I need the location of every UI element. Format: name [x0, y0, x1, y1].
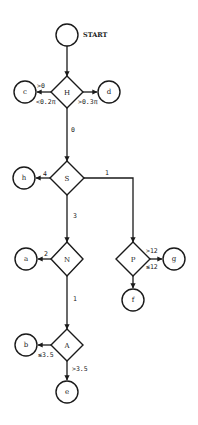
flowchart: START H c d S h N a P g f A b e >0 <0.2π… [0, 0, 198, 425]
node-e-label: e [65, 388, 69, 396]
node-p-label: P [131, 256, 136, 264]
edge-label-h-s: 0 [71, 126, 75, 134]
edge-label-h-d: >0.3π [78, 98, 98, 106]
edge-label-h-c-bottom: <0.2π [36, 98, 56, 106]
edge-label-s-p: 1 [105, 169, 109, 177]
edge-label-p-g-bottom: ≤12 [146, 263, 158, 271]
edge-label-h-c-top: >0 [37, 82, 45, 90]
node-n-label: N [64, 256, 70, 264]
node-b-label: b [24, 341, 29, 349]
node-g-label: g [172, 255, 177, 263]
node-s-label: S [65, 175, 70, 183]
node-start [56, 24, 78, 46]
node-h-terminal-label: h [22, 174, 27, 182]
node-a-label: A [63, 342, 70, 350]
edge-label-a-b: ≤3.5 [38, 351, 54, 359]
edge-label-n-a: 2 [44, 250, 48, 258]
node-d-label: d [107, 88, 112, 96]
node-c-label: c [23, 88, 27, 96]
node-h-label: H [64, 89, 70, 97]
edge-s-to-p [84, 178, 133, 242]
edge-label-p-g-top: >12 [146, 247, 158, 255]
edge-label-s-h: 4 [43, 170, 47, 178]
edge-label-n-a-node: 1 [73, 295, 77, 303]
start-caption: START [83, 31, 108, 39]
edge-label-s-n: 3 [73, 212, 77, 220]
edge-label-a-e: >3.5 [72, 365, 88, 373]
node-a-terminal-label: a [24, 255, 28, 263]
